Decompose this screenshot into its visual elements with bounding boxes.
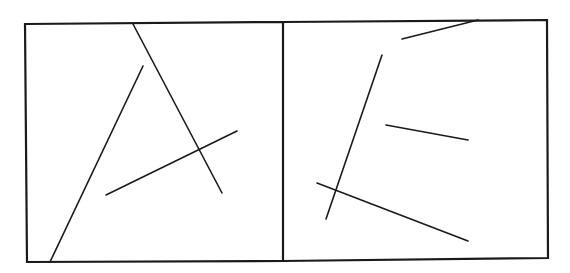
line-diagram bbox=[0, 0, 570, 273]
left-segment-2 bbox=[50, 66, 143, 262]
right-panel bbox=[283, 20, 548, 261]
right-segment-4 bbox=[317, 183, 468, 241]
right-segment-1 bbox=[402, 20, 478, 39]
right-panel-frame bbox=[283, 20, 548, 261]
right-segment-3 bbox=[386, 125, 468, 140]
left-segment-1 bbox=[133, 24, 222, 193]
left-panel-frame bbox=[25, 22, 283, 262]
left-panel bbox=[25, 22, 283, 262]
right-segment-2 bbox=[326, 55, 382, 219]
